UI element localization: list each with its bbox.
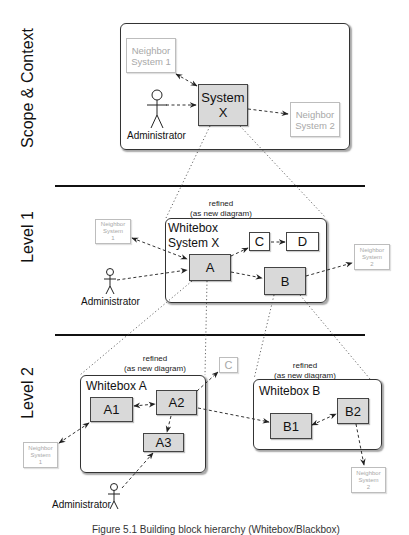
actor-label-administrator-level2: Administrator — [52, 499, 111, 510]
whitebox-a-title: Whitebox A — [86, 379, 147, 394]
refined-note-whitebox-a: refined (as new diagram) — [115, 354, 195, 374]
system-x-block: System X — [198, 84, 248, 126]
block-a3: A3 — [143, 433, 184, 452]
block-b1: B1 — [270, 413, 312, 439]
figure-caption: Figure 5.1 Building block hierarchy (Whi… — [92, 524, 340, 535]
neighbor-system-2-level1: Neighbor System 2 — [354, 244, 390, 270]
block-a: A — [189, 254, 231, 281]
level-label-level1: Level 1 — [19, 211, 37, 263]
ghost-block-c: C — [219, 357, 238, 373]
neighbor-system-2-level2: Neighbor System 2 — [351, 467, 386, 493]
actor-figure-level1 — [104, 269, 116, 295]
neighbor-system-2: Neighbor System 2 — [290, 102, 340, 137]
whitebox-system-x-title: Whitebox System X — [168, 221, 219, 251]
whitebox-b-title: Whitebox B — [259, 384, 320, 399]
actor-label-administrator-level1: Administrator — [81, 296, 140, 307]
block-b: B — [264, 267, 306, 295]
neighbor-system-1-level1: Neighbor System 1 — [95, 219, 131, 244]
block-d: D — [286, 232, 319, 251]
level-label-scope-context: Scope & Context — [19, 28, 37, 148]
neighbor-system-1-level2: Neighbor System 1 — [23, 442, 58, 468]
refined-note-level1: refined (as new diagram) — [186, 199, 256, 219]
refined-note-whitebox-b: refined (as new diagram) — [270, 361, 340, 381]
block-a1: A1 — [90, 397, 133, 422]
actor-label-administrator: Administrator — [127, 130, 186, 141]
level-label-level2: Level 2 — [19, 367, 37, 419]
block-a2: A2 — [156, 390, 197, 415]
neighbor-system-1: Neighbor System 1 — [126, 38, 176, 73]
block-c: C — [249, 232, 270, 251]
block-b2: B2 — [337, 398, 369, 424]
